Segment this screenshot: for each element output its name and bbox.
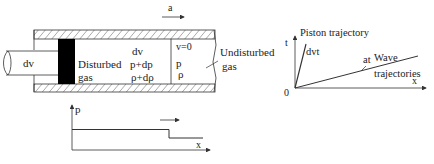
wave-speed-label: a	[168, 2, 173, 13]
disturbed-gas-label-2: gas	[78, 71, 93, 83]
p-axis-label: p	[75, 103, 81, 115]
undisturbed-gas-label-2: gas	[222, 60, 237, 72]
tube-bottom-wall	[34, 84, 215, 92]
undisturbed-density: ρ	[178, 68, 184, 80]
disturbed-density: ρ+dρ	[131, 71, 154, 83]
pressure-profile	[72, 130, 203, 139]
t-axis-label: t	[285, 37, 288, 48]
rod-velocity-label: dv	[23, 57, 35, 69]
origin-label: 0	[284, 87, 289, 98]
undisturbed-velocity: v=0	[176, 41, 192, 52]
tx-diagram	[295, 36, 426, 88]
disturbed-gas-label: Disturbed	[78, 58, 122, 70]
x-axis-label: x	[196, 139, 201, 150]
tube-top-wall	[34, 30, 215, 39]
wave-slope-label: at	[363, 54, 371, 65]
piston-wave-diagram: dv Disturbed gas dv p+dp ρ+dρ v=0 p ρ Un…	[0, 0, 434, 164]
disturbed-velocity: dv	[132, 45, 144, 57]
piston-trajectory	[295, 44, 306, 88]
pressure-plot	[72, 105, 210, 150]
disturbed-pressure: p+dp	[130, 58, 153, 70]
undisturbed-gas-label: Undisturbed	[220, 46, 275, 58]
trajectories-label: trajectories	[374, 68, 421, 79]
piston-trajectory-label: Piston trajectory	[300, 27, 370, 38]
undisturbed-leader	[206, 61, 218, 68]
piston	[58, 39, 75, 84]
piston-slope-label: dvt	[306, 46, 320, 57]
wave-label: Wave	[374, 52, 398, 63]
